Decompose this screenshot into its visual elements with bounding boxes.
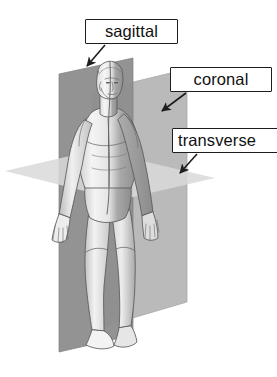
label-transverse: transverse — [172, 128, 277, 153]
label-sagittal: sagittal — [85, 19, 178, 44]
anatomical-planes-diagram: sagittal coronal transverse — [0, 0, 277, 377]
label-sagittal-text: sagittal — [105, 23, 158, 40]
eye-right — [106, 82, 110, 84]
arrow-sagittal — [87, 45, 105, 66]
eye-left — [114, 82, 118, 84]
label-coronal: coronal — [170, 67, 272, 92]
label-transverse-text: transverse — [178, 132, 256, 149]
diagram-canvas — [0, 0, 277, 377]
label-coronal-text: coronal — [194, 71, 249, 88]
